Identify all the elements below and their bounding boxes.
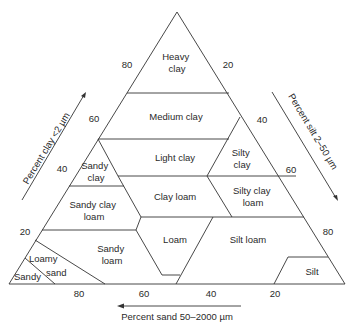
region-sandy-clay-loam: Sandy clay loam	[69, 199, 118, 222]
region-clay-loam: Clay loam	[154, 191, 196, 202]
silt-axis-arrowhead-icon	[333, 195, 338, 201]
sand-tick-20: 20	[270, 288, 281, 299]
boundary-clay-loam-left	[118, 176, 141, 217]
clay-axis-label: Percent clay <2 µm	[20, 110, 72, 186]
silt-tick-80: 80	[323, 226, 334, 237]
region-sandy-loam: Sandy loam	[97, 243, 127, 266]
silt-axis-label: Percent silt 2–50 µm	[286, 91, 340, 171]
clay-tick-40: 40	[57, 163, 68, 174]
clay-tick-20: 20	[20, 226, 31, 237]
sand-axis-arrowhead-icon	[117, 304, 124, 309]
clay-tick-80: 80	[122, 59, 133, 70]
region-silt-loam: Silt loam	[230, 234, 267, 245]
region-medium-clay: Medium clay	[149, 111, 203, 122]
region-loam: Loam	[163, 234, 187, 245]
boundary-silty-clay-loam-left	[207, 176, 232, 217]
silt-tick-60: 60	[286, 164, 297, 175]
clay-axis-arrowhead-icon	[81, 92, 86, 98]
clay-tick-60: 60	[89, 113, 100, 124]
region-sandy: Sandy	[14, 271, 41, 282]
soil-texture-triangle: Heavy clay Medium clay Light clay Silty …	[0, 0, 354, 326]
region-heavy-clay: Heavy clay	[162, 51, 192, 74]
sand-tick-40: 40	[206, 288, 217, 299]
region-silty-clay: Silty clay	[232, 147, 253, 170]
boundary-loam-left	[136, 230, 162, 275]
region-silt: Silt	[305, 266, 319, 277]
boundary-loam-right	[176, 217, 213, 284]
clay-axis-arrow-line	[22, 95, 84, 200]
region-sandy-clay: Sandy clay	[81, 160, 111, 183]
silt-tick-40: 40	[257, 114, 268, 125]
sand-tick-60: 60	[139, 288, 150, 299]
boundary-silt-left	[274, 257, 288, 284]
boundary-loam-notch	[136, 217, 141, 230]
silt-tick-20: 20	[223, 59, 234, 70]
sand-tick-80: 80	[74, 288, 85, 299]
region-light-clay: Light clay	[155, 152, 195, 163]
sand-axis-label: Percent sand 50–2000 µm	[121, 311, 233, 322]
region-silty-clay-loam: Silty clay loam	[233, 185, 273, 208]
